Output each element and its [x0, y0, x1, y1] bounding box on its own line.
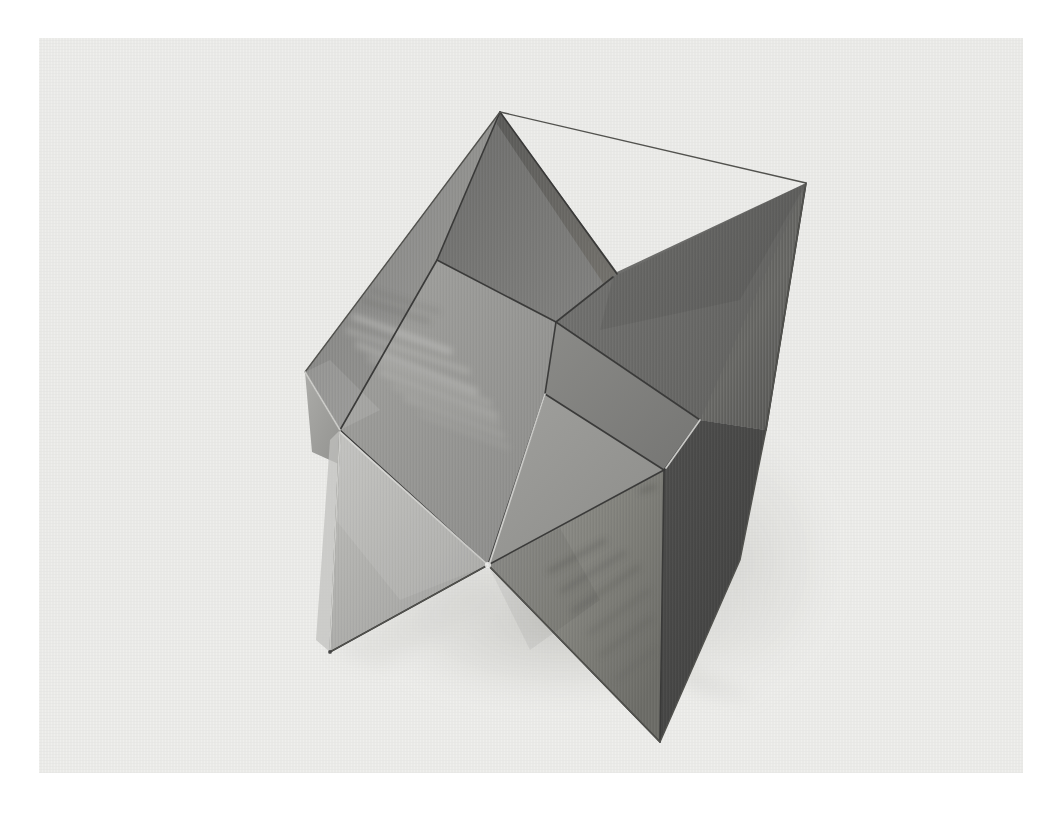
screenshot-canvas: Folded paper sculpture photograph photog…: [0, 0, 1061, 813]
photograph-content: [39, 38, 1023, 773]
photo-vignette: [39, 38, 1023, 773]
photograph: [39, 38, 1023, 773]
